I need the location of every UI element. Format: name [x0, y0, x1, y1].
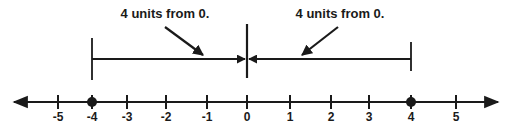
tick-label: 1: [287, 110, 294, 124]
tick-label: 5: [453, 110, 460, 124]
tick-label: -3: [122, 110, 133, 124]
right-pointer-arrow: [302, 27, 338, 55]
tick-label-group: -5-4-3-2-1012345: [53, 110, 460, 124]
tick-label: -4: [87, 110, 98, 124]
left-pointer-arrow: [165, 27, 203, 55]
tick-label: 0: [244, 110, 251, 124]
number-line-diagram: -5-4-3-2-1012345 4 units from 0. 4 units…: [0, 0, 513, 135]
tick-label: -1: [202, 110, 213, 124]
tick-label: 3: [366, 110, 373, 124]
plotted-point: [87, 97, 97, 107]
distance-bracket-group: [92, 24, 411, 80]
tick-label: -2: [161, 110, 172, 124]
left-distance-label: 4 units from 0.: [121, 6, 210, 21]
right-distance-label: 4 units from 0.: [296, 6, 385, 21]
plotted-point: [406, 97, 416, 107]
tick-label: 2: [328, 110, 335, 124]
tick-label: -5: [53, 110, 64, 124]
tick-label: 4: [408, 110, 415, 124]
